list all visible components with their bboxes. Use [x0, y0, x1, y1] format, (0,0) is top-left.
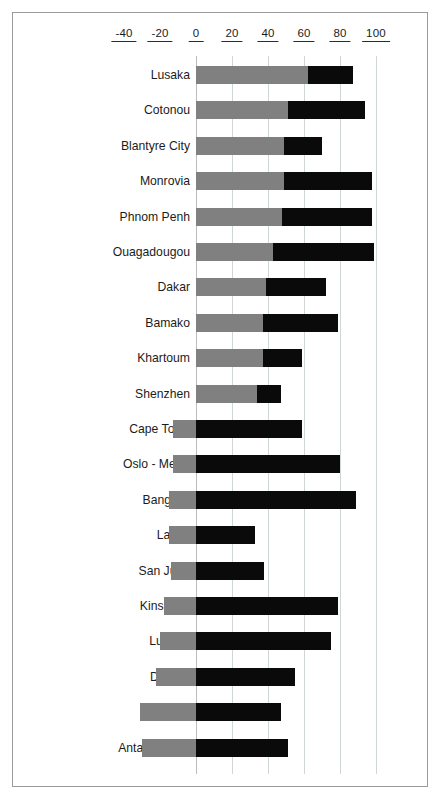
bar-segment-black [257, 385, 280, 403]
chart-row: Antananarivo [0, 731, 440, 765]
bar-segment-gray [196, 208, 282, 226]
chart-row: Cape Town [0, 412, 440, 446]
bar-segment-black [263, 314, 339, 332]
chart-row: Khartoum [0, 341, 440, 375]
bar-segment-gray [173, 420, 196, 438]
chart-row: Lagos [0, 518, 440, 552]
bar-segment-black [263, 349, 303, 367]
bar-segment-black [196, 703, 281, 721]
bar-segment-gray [196, 278, 266, 296]
bar-segment-black [284, 137, 322, 155]
chart-row: Yaoundé [0, 695, 440, 729]
x-tick-label-neg20: -20 [147, 26, 172, 42]
chart-figure: -40-20020406080100 LusakaCotonouBlantyre… [0, 0, 440, 799]
bar-segment-black [196, 632, 331, 650]
bar-segment-gray [196, 385, 257, 403]
x-axis-tick-labels: -40-20020406080100 [0, 26, 440, 52]
bar-segment-gray [156, 668, 196, 686]
x-tick-label-100: 100 [362, 26, 390, 42]
bar-segment-black [288, 101, 365, 119]
bar-segment-black [196, 668, 295, 686]
x-tick-label-neg40: -40 [111, 26, 136, 42]
chart-row: Ouagadougou [0, 235, 440, 269]
chart-row: Monrovia [0, 164, 440, 198]
bar-segment-black [196, 739, 288, 757]
chart-row: Cotonou [0, 93, 440, 127]
chart-row: Bangkok [0, 483, 440, 517]
bar-segment-black [196, 597, 338, 615]
x-tick-label-40: 40 [257, 26, 278, 42]
x-tick-label-20: 20 [221, 26, 242, 42]
bar-segment-gray [164, 597, 196, 615]
bar-segment-gray [196, 349, 263, 367]
x-tick-label-80: 80 [329, 26, 350, 42]
bar-segment-gray [140, 703, 196, 721]
bar-segment-gray [196, 66, 308, 84]
bar-segment-black [284, 172, 372, 190]
bar-segment-gray [196, 314, 263, 332]
chart-row: Oslo - Metro [0, 447, 440, 481]
bar-segment-black [196, 526, 255, 544]
bar-segment-gray [196, 137, 284, 155]
bar-segment-black [273, 243, 374, 261]
bar-segment-black [266, 278, 325, 296]
bar-segment-black [282, 208, 372, 226]
bar-segment-gray [173, 455, 196, 473]
chart-row: Lusaka [0, 58, 440, 92]
bar-segment-gray [196, 243, 273, 261]
bar-segment-black [196, 562, 264, 580]
bar-segment-gray [171, 562, 196, 580]
chart-row: Dakar [0, 270, 440, 304]
x-tick-label-60: 60 [293, 26, 314, 42]
chart-plot-area: LusakaCotonouBlantyre CityMonroviaPhnom … [0, 56, 440, 774]
chart-row: Blantyre City [0, 129, 440, 163]
chart-row: Bamako [0, 306, 440, 340]
bar-segment-black [196, 420, 302, 438]
chart-row: Luanda [0, 624, 440, 658]
bar-segment-black [308, 66, 353, 84]
bar-segment-gray [142, 739, 196, 757]
chart-row: Shenzhen [0, 377, 440, 411]
x-tick-label-0: 0 [189, 26, 204, 42]
bar-segment-gray [196, 172, 284, 190]
bar-segment-gray [169, 491, 196, 509]
bar-segment-gray [169, 526, 196, 544]
chart-row: San Juan [0, 554, 440, 588]
chart-row: Durban [0, 660, 440, 694]
chart-row: Phnom Penh [0, 200, 440, 234]
bar-segment-gray [160, 632, 196, 650]
bar-segment-black [196, 491, 356, 509]
bar-segment-gray [196, 101, 288, 119]
bar-segment-black [196, 455, 340, 473]
chart-row: Kinshasa [0, 589, 440, 623]
